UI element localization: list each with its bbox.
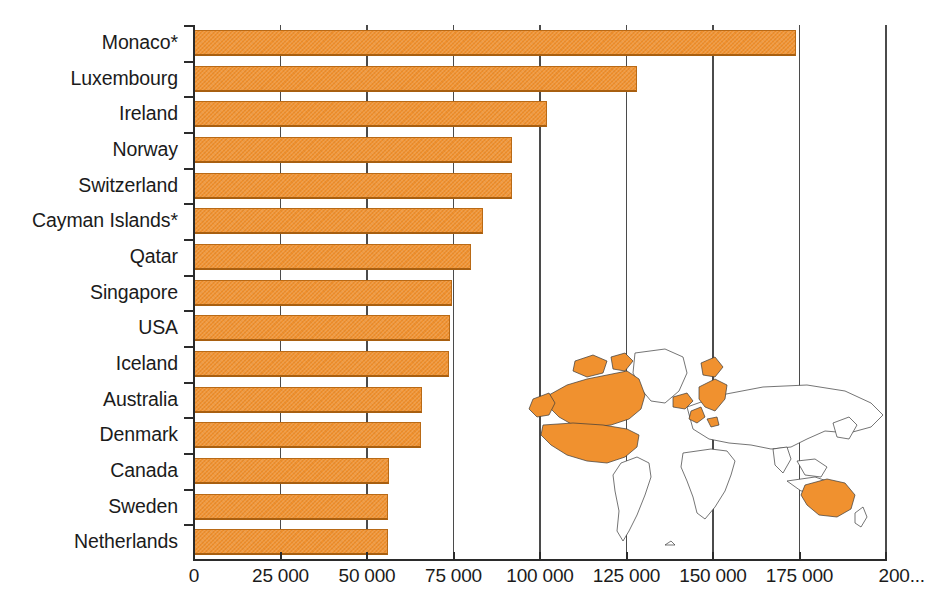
x-axis-tick-label: 150 000 <box>679 566 746 585</box>
bar <box>194 30 796 56</box>
gridline <box>626 25 628 560</box>
plot-area <box>194 25 886 560</box>
x-axis-tick-label: 25 000 <box>252 566 309 585</box>
y-axis-label: Denmark <box>0 425 178 445</box>
x-axis-tick <box>193 552 195 561</box>
y-axis-label: Iceland <box>0 354 178 374</box>
gridline <box>799 25 801 560</box>
x-axis-tick <box>453 552 455 561</box>
y-axis-tick <box>184 382 194 384</box>
x-axis-tick <box>539 552 541 561</box>
y-axis-label: Luxembourg <box>0 69 178 89</box>
gridline <box>712 25 714 560</box>
y-axis-line <box>193 25 195 560</box>
y-axis-category-labels: Monaco* Luxembourg Ireland Norway Switze… <box>0 25 186 560</box>
y-axis-tick <box>184 453 194 455</box>
y-axis-tick <box>184 524 194 526</box>
x-axis-tick-label: 125 000 <box>593 566 660 585</box>
y-axis-tick <box>184 275 194 277</box>
bar <box>194 494 388 520</box>
y-axis-tick <box>184 132 194 134</box>
bar <box>194 315 450 341</box>
bar <box>194 529 388 555</box>
bar <box>194 66 637 92</box>
y-axis-label: Ireland <box>0 104 178 124</box>
x-axis-tick-label: 200... <box>879 566 925 585</box>
y-axis-label: Switzerland <box>0 176 178 196</box>
y-axis-tick <box>184 61 194 63</box>
y-axis-tick <box>184 310 194 312</box>
x-axis-tick <box>280 552 282 561</box>
x-axis-tick <box>799 552 801 561</box>
bar <box>194 351 449 377</box>
bar <box>194 387 422 413</box>
y-axis-tick <box>184 489 194 491</box>
y-axis-tick <box>184 239 194 241</box>
bar <box>194 137 512 163</box>
bar <box>194 458 389 484</box>
bar <box>194 422 421 448</box>
y-axis-label: Norway <box>0 140 178 160</box>
x-axis-tick-label: 75 000 <box>425 566 482 585</box>
y-axis-tick <box>184 203 194 205</box>
bar <box>194 208 483 234</box>
y-axis-tick <box>184 96 194 98</box>
y-axis-label: USA <box>0 318 178 338</box>
y-axis-label: Australia <box>0 390 178 410</box>
y-axis-tick <box>184 25 194 27</box>
bar-chart: Monaco* Luxembourg Ireland Norway Switze… <box>0 0 930 605</box>
bar <box>194 101 547 127</box>
x-axis-tick <box>885 552 887 561</box>
gridline <box>885 25 887 560</box>
y-axis-tick <box>184 417 194 419</box>
y-axis-label: Cayman Islands* <box>0 211 178 231</box>
bar <box>194 173 512 199</box>
x-axis-tick <box>366 552 368 561</box>
bar <box>194 280 452 306</box>
bar <box>194 244 471 270</box>
y-axis-label: Singapore <box>0 283 178 303</box>
x-axis-tick-label: 50 000 <box>339 566 396 585</box>
x-axis-tick <box>712 552 714 561</box>
x-axis-tick-label: 100 000 <box>506 566 573 585</box>
y-axis-label: Sweden <box>0 497 178 517</box>
x-axis-tick-label: 175 000 <box>766 566 833 585</box>
plot-inner <box>194 25 886 560</box>
y-axis-tick <box>184 168 194 170</box>
y-axis-tick <box>184 346 194 348</box>
x-axis-tick <box>626 552 628 561</box>
y-axis-label: Qatar <box>0 247 178 267</box>
y-axis-label: Netherlands <box>0 532 178 552</box>
y-axis-label: Monaco* <box>0 33 178 53</box>
y-axis-label: Canada <box>0 461 178 481</box>
x-axis-tick-label: 0 <box>189 566 199 585</box>
